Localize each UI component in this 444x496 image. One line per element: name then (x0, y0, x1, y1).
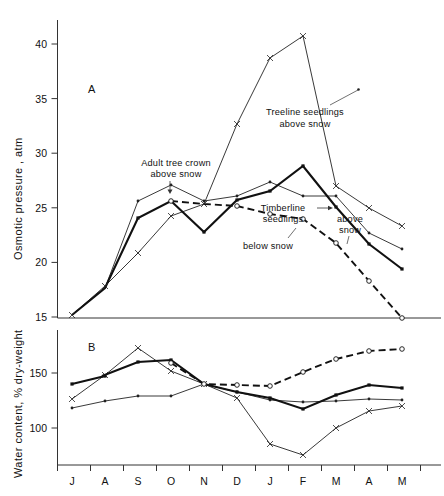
month-label-apr: A (365, 475, 372, 487)
series-timberline-below-snow-panel-b (171, 349, 402, 386)
series-treeline-above-snow-panel-a (72, 36, 402, 315)
annotation-treeline-line2: above snow (279, 119, 330, 129)
tick-label-a-40: 40 (35, 38, 47, 50)
tick-label-a-20: 20 (35, 256, 47, 268)
annotation-treeline-line1: Treeline seedlings (266, 107, 344, 117)
panel-a-annotations: Treeline seedlings above snow Adult tree… (141, 88, 363, 251)
leader-line-below-snow (288, 228, 296, 238)
month-label-feb: F (300, 475, 306, 487)
scientific-figure: Osmotic pressure , atm Water content, % … (0, 0, 444, 496)
arrow-head-adult (168, 190, 173, 195)
annotation-timberline-line2: seedlings (263, 214, 304, 224)
annotation-above-snow-line1: above (337, 214, 363, 224)
month-label-sep: S (134, 475, 141, 487)
series-treeline-above-snow-panel-b (72, 348, 402, 455)
month-label-may: M (398, 475, 407, 487)
tick-label-a-30: 30 (35, 147, 47, 159)
panel-b-series (72, 348, 402, 455)
leader-dot-treeline (357, 88, 360, 91)
tick-label-a-15: 15 (35, 311, 47, 323)
arrow-head-timberline (328, 206, 333, 210)
annotation-above-snow-line2: snow (339, 225, 361, 235)
y-axis-label-panel-a: Osmotic pressure , atm (12, 138, 24, 261)
leader-line-treeline (330, 90, 358, 105)
tick-label-b-100: 100 (29, 422, 47, 434)
tick-label-a-35: 35 (35, 93, 47, 105)
panel-a-axes (52, 20, 442, 318)
month-label-oct: O (167, 475, 175, 487)
y-axis-label-panel-b: Water content, % dry-weight (12, 329, 24, 478)
panel-a-letter: A (88, 83, 96, 95)
month-label-jan: J (267, 475, 272, 487)
panel-a-series (72, 36, 402, 318)
annotation-adult-line2: above snow (150, 169, 201, 179)
x-axis-ticks (58, 465, 421, 471)
tick-label-b-150: 150 (29, 367, 47, 379)
annotation-timberline-line1: Timberline (261, 203, 306, 213)
annotation-below-snow: below snow (243, 241, 293, 251)
panel-a-markers (69, 33, 405, 320)
figure-container: Osmotic pressure , atm Water content, % … (0, 0, 444, 496)
annotation-adult-line1: Adult tree crown (141, 158, 211, 168)
month-label-aug: A (101, 475, 108, 487)
series-adult-crown-panel-a (72, 182, 402, 315)
month-label-nov: N (200, 475, 208, 487)
tick-label-a-25: 25 (35, 202, 47, 214)
series-timberline-above-snow-panel-a (72, 166, 402, 315)
x-axis-month-labels: J A S O N D J F M A M (69, 475, 406, 487)
month-label-dec: D (233, 475, 241, 487)
panel-a-tick-labels: 40 35 30 25 20 15 (35, 38, 47, 323)
panel-b-markers (69, 345, 405, 458)
panel-b-tick-labels: 150 100 (29, 367, 47, 434)
leader-line-above-snow (347, 236, 349, 244)
panel-b-letter: B (88, 341, 95, 353)
month-label-mar: M (332, 475, 341, 487)
month-label-jul: J (69, 475, 74, 487)
